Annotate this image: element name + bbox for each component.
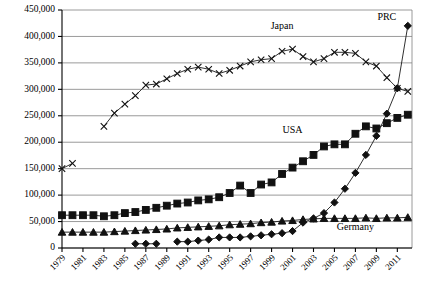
data-point — [383, 110, 390, 117]
data-point — [174, 70, 180, 76]
series-label-prc: PRC — [377, 11, 396, 22]
data-point — [321, 143, 328, 150]
data-point — [289, 164, 296, 171]
y-axis-label: 250,000 — [24, 110, 55, 120]
y-axis-label: 400,000 — [24, 31, 55, 41]
data-point — [300, 158, 307, 165]
data-point — [383, 120, 390, 127]
x-axis-label: 1983 — [90, 252, 110, 272]
data-point — [122, 101, 128, 107]
data-point — [247, 233, 254, 240]
data-point — [216, 194, 223, 201]
y-axis-label: 50,000 — [29, 216, 55, 226]
chart-container: 050,000100,000150,000200,000250,000300,0… — [0, 0, 425, 292]
data-point — [362, 123, 369, 130]
x-axis-label: 2011 — [383, 252, 403, 272]
data-point — [59, 212, 66, 219]
data-point — [362, 151, 369, 158]
x-axis-label: 2001 — [278, 252, 298, 272]
x-axis-label: 1999 — [257, 252, 277, 272]
x-axis-label: 1993 — [194, 252, 214, 272]
data-point — [80, 212, 87, 219]
data-point — [279, 171, 286, 178]
data-point — [153, 204, 160, 211]
x-axis-label: 1995 — [215, 252, 235, 272]
series-usa: USA — [59, 111, 412, 219]
series-label-japan: Japan — [271, 20, 294, 31]
data-point — [384, 74, 390, 80]
y-axis-label: 300,000 — [24, 84, 55, 94]
data-point — [321, 55, 327, 61]
x-axis-label: 1991 — [173, 252, 193, 272]
data-point — [195, 237, 202, 244]
series-label-germany: Germany — [337, 221, 374, 232]
data-point — [164, 76, 170, 82]
data-point — [111, 212, 118, 219]
data-point — [163, 202, 170, 209]
data-point — [310, 59, 316, 65]
y-axis-label: 0 — [50, 242, 55, 252]
x-axis-label: 1985 — [110, 252, 130, 272]
x-axis-label: 2005 — [320, 252, 340, 272]
data-point — [226, 67, 232, 73]
data-point — [142, 207, 149, 214]
x-axis-label: 1997 — [236, 252, 256, 272]
data-point — [111, 110, 117, 116]
data-point — [237, 182, 244, 189]
data-point — [278, 230, 285, 237]
data-point — [268, 179, 275, 186]
data-point — [342, 141, 349, 148]
y-axis-label: 100,000 — [24, 189, 55, 199]
y-axis-label: 200,000 — [24, 136, 55, 146]
data-point — [142, 240, 149, 247]
data-point — [258, 181, 265, 188]
data-point — [226, 190, 233, 197]
data-point — [268, 231, 275, 238]
data-point — [90, 212, 97, 219]
data-point — [101, 123, 107, 129]
x-axis-label: 2009 — [362, 252, 382, 272]
data-point — [352, 130, 359, 137]
y-axis-label: 350,000 — [24, 57, 55, 67]
data-point — [216, 234, 223, 241]
data-point — [69, 212, 76, 219]
data-point — [132, 92, 138, 98]
data-point — [300, 53, 306, 59]
x-axis-label: 1987 — [131, 252, 151, 272]
data-point — [121, 210, 128, 217]
data-point — [132, 209, 139, 216]
y-axis-label: 150,000 — [24, 163, 55, 173]
data-point — [132, 240, 139, 247]
x-axis-label: 2003 — [299, 252, 319, 272]
data-point — [174, 238, 181, 245]
y-axis-label: 450,000 — [24, 4, 55, 14]
data-point — [331, 141, 338, 148]
data-point — [404, 111, 411, 118]
x-axis-label: 1981 — [69, 252, 89, 272]
series-label-usa: USA — [283, 124, 304, 135]
data-point — [310, 152, 317, 159]
data-point — [226, 234, 233, 241]
data-point — [352, 169, 359, 176]
data-point — [195, 197, 202, 204]
data-point — [363, 59, 369, 65]
data-point — [153, 240, 160, 247]
data-point — [69, 160, 75, 166]
data-point — [174, 200, 181, 207]
line-chart: 050,000100,000150,000200,000250,000300,0… — [0, 0, 425, 292]
data-point — [184, 238, 191, 245]
data-point — [184, 199, 191, 206]
data-point — [101, 213, 108, 220]
data-point — [247, 190, 254, 197]
data-point — [237, 63, 243, 69]
x-axis-label: 1989 — [152, 252, 172, 272]
data-point — [404, 22, 411, 29]
data-point — [237, 234, 244, 241]
data-point — [205, 236, 212, 243]
data-point — [341, 185, 348, 192]
x-axis-label: 1979 — [48, 252, 68, 272]
data-point — [216, 70, 222, 76]
data-point — [258, 232, 265, 239]
data-point — [394, 114, 401, 121]
data-point — [373, 132, 380, 139]
